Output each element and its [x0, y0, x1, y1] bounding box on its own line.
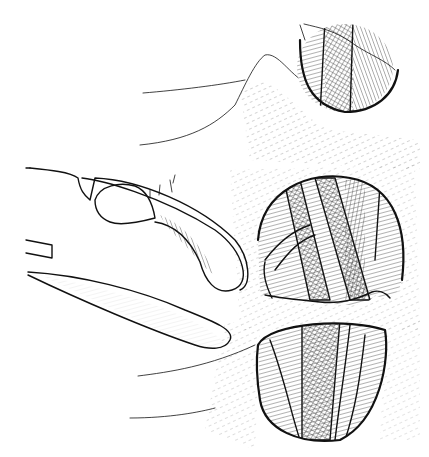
upper-exposure: [290, 20, 398, 120]
anatomical-drawing: [0, 0, 429, 457]
retractor-instrument: [26, 168, 248, 349]
lower-exposure: [255, 318, 395, 448]
illustration-canvas: [0, 0, 429, 457]
